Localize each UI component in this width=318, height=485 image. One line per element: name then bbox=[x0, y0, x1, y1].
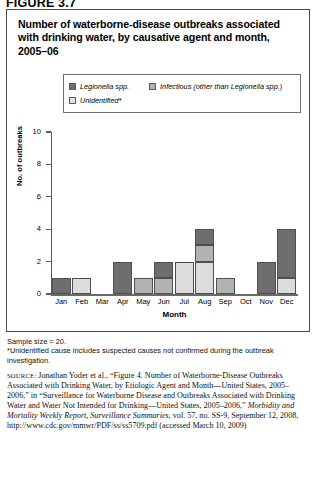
x-axis-title: Month bbox=[51, 310, 298, 319]
legend-swatch-infectious-icon bbox=[149, 83, 156, 90]
x-tick-label-feb: Feb bbox=[72, 298, 93, 306]
x-tick-label-dec: Dec bbox=[277, 298, 298, 306]
legend-item-legionella: Legionella spp. bbox=[69, 82, 129, 91]
x-tick-label-jul: Jul bbox=[174, 298, 195, 306]
legend-item-infectious: Infectious (other than Legionella spp.) bbox=[149, 82, 282, 91]
note-sample-size: Sample size = 20. bbox=[7, 337, 307, 346]
bar-segment[interactable] bbox=[52, 278, 71, 294]
bar-segment[interactable] bbox=[113, 262, 132, 294]
legend-swatch-legionella-icon bbox=[69, 83, 76, 90]
y-tick-label: 2 bbox=[7, 258, 41, 266]
bar-segment[interactable] bbox=[134, 278, 153, 294]
figure-notes: Sample size = 20. *Unidentified cause in… bbox=[7, 337, 307, 365]
bar-group-may[interactable] bbox=[134, 278, 153, 294]
bar-segment[interactable] bbox=[195, 262, 214, 294]
legend-label-legionella: Legionella spp. bbox=[80, 82, 129, 91]
bar-group-nov[interactable] bbox=[257, 262, 276, 294]
x-tick-label-apr: Apr bbox=[113, 298, 134, 306]
x-axis-line bbox=[51, 294, 298, 296]
bar-group-jun[interactable] bbox=[154, 262, 173, 294]
legend-label-unidentified: Unidentified* bbox=[80, 96, 121, 105]
bar-segment[interactable] bbox=[195, 245, 214, 261]
legend-label-infectious: Infectious (other than Legionella spp.) bbox=[160, 82, 282, 91]
bar-group-dec[interactable] bbox=[277, 229, 296, 294]
plot-area bbox=[51, 132, 297, 294]
x-tick-label-jan: Jan bbox=[51, 298, 72, 306]
bar-segment[interactable] bbox=[216, 278, 235, 294]
figure-number: FIGURE 3.7 bbox=[6, 0, 76, 9]
chart-legend: Legionella spp. Infectious (other than L… bbox=[63, 74, 301, 113]
legend-row-2: Unidentified* bbox=[69, 93, 295, 107]
legend-swatch-unidentified-icon bbox=[69, 97, 76, 104]
bar-group-apr[interactable] bbox=[113, 262, 132, 294]
y-tick-label: 10 bbox=[7, 128, 41, 136]
x-tick-label-mar: Mar bbox=[92, 298, 113, 306]
x-tick-label-oct: Oct bbox=[236, 298, 257, 306]
figure-source: SOURCE: Jonathan Yoder et al., “Figure 4… bbox=[7, 371, 309, 432]
bar-group-feb[interactable] bbox=[72, 278, 91, 294]
bar-group-aug[interactable] bbox=[195, 229, 214, 294]
bar-segment[interactable] bbox=[195, 229, 214, 245]
chart-title: Number of waterborne-disease outbreaks a… bbox=[18, 18, 296, 58]
x-tick-label-sep: Sep bbox=[215, 298, 236, 306]
bar-segment[interactable] bbox=[277, 278, 296, 294]
note-footnote-line2: investigation. bbox=[7, 356, 307, 365]
note-footnote-line1: *Unidentified cause includes suspected c… bbox=[7, 346, 307, 355]
x-tick-label-jun: Jun bbox=[154, 298, 175, 306]
bar-segment[interactable] bbox=[277, 229, 296, 278]
bar-group-jul[interactable] bbox=[175, 262, 194, 294]
source-label: SOURCE: bbox=[7, 372, 36, 379]
bar-segment[interactable] bbox=[154, 262, 173, 278]
bar-group-sep[interactable] bbox=[216, 278, 235, 294]
bar-segment[interactable] bbox=[257, 262, 276, 294]
chart-plot-wrapper: No. of outbreaks 0246810 JanFebMarAprMay… bbox=[7, 120, 311, 330]
x-tick-label-nov: Nov bbox=[256, 298, 277, 306]
bar-segment[interactable] bbox=[72, 278, 91, 294]
legend-row-1: Legionella spp. Infectious (other than L… bbox=[69, 79, 295, 93]
y-tick-label: 4 bbox=[7, 225, 41, 233]
x-tick-label-may: May bbox=[133, 298, 154, 306]
x-tick-label-aug: Aug bbox=[195, 298, 216, 306]
y-tick-label: 6 bbox=[7, 193, 41, 201]
bar-segment[interactable] bbox=[175, 262, 194, 294]
bar-group-jan[interactable] bbox=[52, 278, 71, 294]
bar-segment[interactable] bbox=[154, 278, 173, 294]
figure-container: Number of waterborne-disease outbreaks a… bbox=[6, 9, 310, 332]
y-tick-label: 0 bbox=[7, 290, 41, 298]
legend-item-unidentified: Unidentified* bbox=[69, 96, 121, 105]
y-tick-label: 8 bbox=[7, 160, 41, 168]
